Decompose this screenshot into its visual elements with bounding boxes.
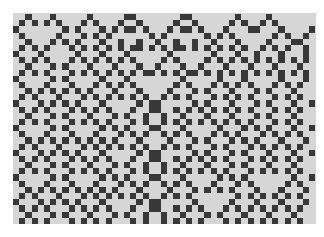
cell-off <box>309 218 315 224</box>
cell-grid <box>13 14 315 224</box>
automaton-panel <box>13 13 316 224</box>
